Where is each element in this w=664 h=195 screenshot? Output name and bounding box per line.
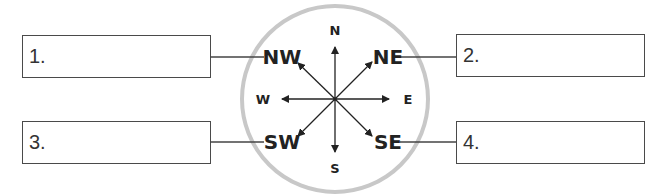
compass-rose: N S W E NW NE SW SE <box>0 0 664 195</box>
label-south: S <box>330 161 339 176</box>
label-east: E <box>404 92 413 107</box>
label-southeast: SE <box>374 130 402 154</box>
label-north: N <box>330 23 341 38</box>
compass-center-dot <box>333 97 337 101</box>
arrow-southwest-icon <box>298 99 335 136</box>
label-southwest: SW <box>264 130 300 154</box>
label-northwest: NW <box>263 45 302 69</box>
arrow-southeast-icon <box>335 99 372 136</box>
arrow-northwest-icon <box>298 63 335 99</box>
arrow-northeast-icon <box>335 62 372 99</box>
label-west: W <box>256 92 270 107</box>
label-northeast: NE <box>373 45 403 69</box>
